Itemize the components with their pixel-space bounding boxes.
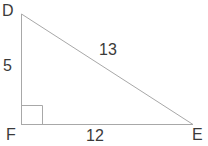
triangle-drawing [0,0,208,146]
side-length-de: 13 [99,42,117,58]
vertex-label-d: D [2,3,14,19]
vertex-label-f: F [6,127,16,143]
side-length-df: 5 [3,58,12,74]
vertex-label-e: E [192,127,203,143]
side-length-fe: 12 [86,128,104,144]
triangle-figure: D F E 5 13 12 [0,0,208,146]
segment-de [22,14,194,125]
right-angle-marker [22,106,43,126]
